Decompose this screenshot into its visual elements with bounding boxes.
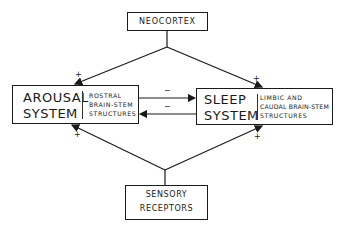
sensory-label-line2: RECEPTORS xyxy=(126,204,207,213)
arousal-sub-line2: BRAIN-STEM xyxy=(89,100,133,109)
sleep-title-line2: SYSTEM xyxy=(204,108,259,123)
sleep-sub-line3: STRUCTURES xyxy=(260,111,307,120)
arousal-title-line2: SYSTEM xyxy=(23,106,78,121)
plus-sign-neocortex-arousal: + xyxy=(75,71,82,79)
plus-sign-sensory-arousal: + xyxy=(74,131,81,139)
arousal-sub-line1: ROSTRAL xyxy=(89,91,122,100)
sleep-title-line1: SLEEP xyxy=(204,92,246,107)
sleep-system-node: SLEEP SYSTEM LIMBIC AND CAUDAL BRAIN-STE… xyxy=(196,88,333,125)
plus-sign-neocortex-sleep: + xyxy=(253,75,260,83)
arousal-system-node: AROUSAL SYSTEM ROSTRAL BRAIN-STEM STRUCT… xyxy=(12,85,139,124)
neocortex-node: NEOCORTEX xyxy=(127,12,208,31)
sensory-label-line1: SENSORY xyxy=(126,190,207,199)
arousal-sub-line3: STRUCTURES xyxy=(89,109,136,118)
minus-sign-arousal-sleep: − xyxy=(164,87,171,95)
sleep-sub-line2: CAUDAL BRAIN-STEM xyxy=(260,102,329,111)
sensory-receptors-node: SENSORY RECEPTORS xyxy=(125,185,208,220)
sleep-sub-line1: LIMBIC AND xyxy=(260,93,303,102)
sleep-brace xyxy=(257,94,258,120)
arousal-title-line1: AROUSAL xyxy=(23,90,89,105)
minus-sign-sleep-arousal: − xyxy=(164,103,171,111)
neocortex-label: NEOCORTEX xyxy=(128,17,207,26)
arousal-brace xyxy=(82,91,83,119)
plus-sign-sensory-sleep: + xyxy=(254,133,261,141)
